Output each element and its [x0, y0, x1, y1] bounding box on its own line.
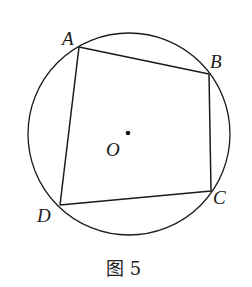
geometry-figure: A B C D O 图 5: [0, 0, 252, 287]
label-c: C: [213, 187, 226, 208]
center-dot: [126, 131, 131, 136]
quadrilateral-abcd: [60, 47, 211, 205]
label-d: D: [36, 205, 51, 226]
label-b: B: [210, 51, 222, 72]
figure-caption: 图 5: [106, 258, 141, 279]
label-o: O: [106, 139, 120, 160]
label-a: A: [60, 28, 74, 49]
